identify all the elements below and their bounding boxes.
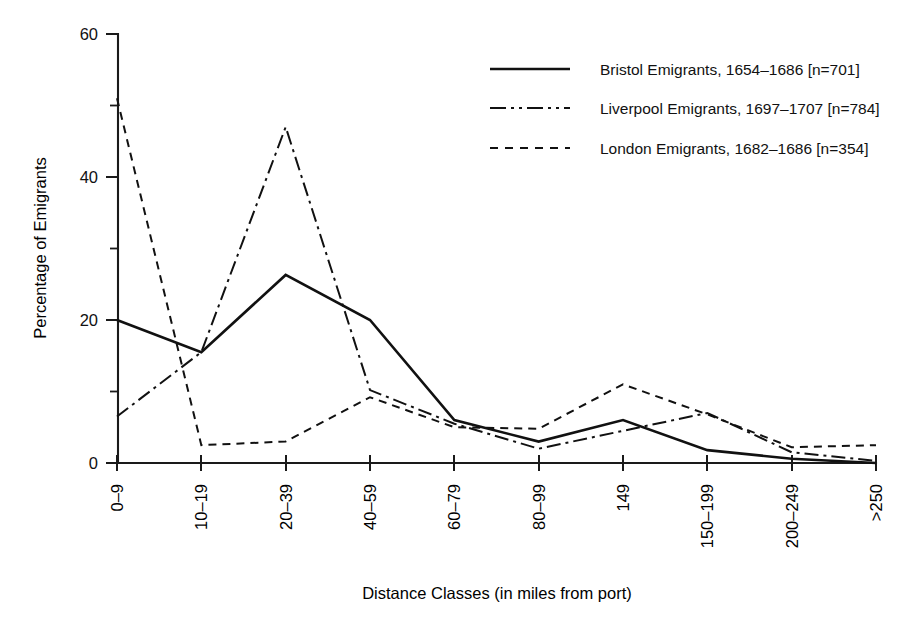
x-axis-title: Distance Classes (in miles from port): [362, 584, 632, 602]
x-tick-label-8: 200–249: [783, 484, 801, 548]
x-tick-label-6: 149: [614, 484, 632, 512]
x-tick-label-9: >250: [867, 484, 885, 521]
y-tick-label-20: 20: [80, 311, 98, 329]
legend-label-london: London Emigrants, 1682–1686 [n=354]: [600, 140, 868, 157]
x-tick-label-4: 60–79: [445, 484, 463, 530]
x-tick-label-7: 150–199: [698, 484, 716, 548]
series-line-liverpool: [117, 127, 876, 461]
x-tick-label-0: 0–9: [108, 484, 126, 512]
x-tick-label-1: 10–19: [192, 484, 210, 530]
x-tick-label-3: 40–59: [361, 484, 379, 530]
y-axis-title: Percentage of Emigrants: [31, 157, 49, 339]
x-axis-tick-labels: 0–9 10–19 20–39 40–59 60–79 80–99 149 15…: [108, 484, 885, 548]
legend-label-liverpool: Liverpool Emigrants, 1697–1707 [n=784]: [600, 100, 880, 117]
y-tick-label-0: 0: [89, 454, 98, 472]
emigrant-distance-line-chart: 0 20 40 60 Percentage of Emigrants 0–9 1…: [0, 0, 913, 629]
chart-figure: 0 20 40 60 Percentage of Emigrants 0–9 1…: [0, 0, 913, 629]
y-axis-ticks: [106, 34, 118, 463]
x-tick-label-5: 80–99: [530, 484, 548, 530]
y-tick-label-60: 60: [80, 25, 98, 43]
legend-label-bristol: Bristol Emigrants, 1654–1686 [n=701]: [600, 61, 860, 78]
chart-legend: Bristol Emigrants, 1654–1686 [n=701] Liv…: [490, 61, 880, 157]
y-tick-label-40: 40: [80, 168, 98, 186]
x-tick-label-2: 20–39: [277, 484, 295, 530]
